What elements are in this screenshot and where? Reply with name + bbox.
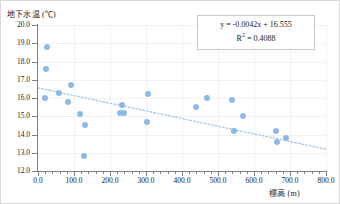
x-tick-minor bbox=[196, 172, 197, 174]
x-tick-minor bbox=[261, 172, 262, 174]
x-tick-minor bbox=[312, 172, 313, 174]
x-tick-minor bbox=[297, 172, 298, 174]
data-point bbox=[144, 119, 150, 125]
y-tick bbox=[32, 62, 37, 63]
x-tick-minor bbox=[153, 172, 154, 174]
x-tick-minor bbox=[232, 172, 233, 174]
regression-equation: y = -0.0042x + 16.555 bbox=[200, 20, 312, 31]
x-tick-label: 0.0 bbox=[18, 176, 58, 185]
y-tick bbox=[32, 135, 37, 136]
y-tick bbox=[32, 43, 37, 44]
y-tick-label: 13.0 bbox=[1, 148, 30, 157]
r-squared-line: R2 = 0.4088 bbox=[200, 31, 312, 44]
x-tick-minor bbox=[81, 172, 82, 174]
x-tick-label: 500.0 bbox=[198, 176, 238, 185]
x-tick-minor bbox=[304, 172, 305, 174]
x-tick-minor bbox=[60, 172, 61, 174]
y-tick-label: 15.0 bbox=[1, 111, 30, 120]
x-tick-minor bbox=[247, 172, 248, 174]
y-tick-label: 19.0 bbox=[1, 38, 30, 47]
data-point bbox=[65, 99, 71, 105]
x-tick-minor bbox=[103, 172, 104, 174]
x-tick-minor bbox=[168, 172, 169, 174]
x-tick-minor bbox=[45, 172, 46, 174]
x-tick-label: 300.0 bbox=[126, 176, 166, 185]
data-point bbox=[44, 44, 50, 50]
data-point bbox=[56, 90, 62, 96]
y-tick bbox=[32, 171, 37, 172]
r-squared-value: = 0.4088 bbox=[247, 33, 276, 42]
y-tick-label: 20.0 bbox=[1, 20, 30, 29]
x-tick-label: 800.0 bbox=[306, 176, 340, 185]
x-tick-minor bbox=[189, 172, 190, 174]
x-tick-minor bbox=[117, 172, 118, 174]
x-axis-title: 標高 (m) bbox=[269, 187, 300, 198]
x-tick-minor bbox=[204, 172, 205, 174]
regression-annotation-box: y = -0.0042x + 16.555 R2 = 0.4088 bbox=[197, 15, 315, 50]
chart-figure: 地下水温 (℃) 標高 (m) y = -0.0042x + 16.555 R2… bbox=[0, 0, 340, 204]
x-tick-minor bbox=[160, 172, 161, 174]
gridline-vertical bbox=[326, 25, 327, 171]
x-tick-minor bbox=[268, 172, 269, 174]
y-tick bbox=[32, 153, 37, 154]
x-tick-minor bbox=[276, 172, 277, 174]
x-tick-minor bbox=[88, 172, 89, 174]
y-tick-label: 17.0 bbox=[1, 75, 30, 84]
x-tick-minor bbox=[96, 172, 97, 174]
x-tick-label: 400.0 bbox=[162, 176, 202, 185]
x-tick-label: 600.0 bbox=[234, 176, 274, 185]
data-point bbox=[231, 128, 237, 134]
x-tick-label: 200.0 bbox=[90, 176, 130, 185]
r-squared-exponent: 2 bbox=[242, 32, 245, 38]
x-tick-minor bbox=[283, 172, 284, 174]
y-tick-label: 16.0 bbox=[1, 93, 30, 102]
data-point bbox=[43, 66, 49, 72]
x-tick-minor bbox=[124, 172, 125, 174]
y-tick-label: 12.0 bbox=[1, 166, 30, 175]
x-tick-minor bbox=[225, 172, 226, 174]
y-tick bbox=[32, 98, 37, 99]
x-tick-minor bbox=[319, 172, 320, 174]
y-tick bbox=[32, 80, 37, 81]
x-tick-label: 100.0 bbox=[54, 176, 94, 185]
y-tick-label: 14.0 bbox=[1, 130, 30, 139]
x-tick-minor bbox=[132, 172, 133, 174]
y-tick bbox=[32, 116, 37, 117]
data-point bbox=[119, 102, 125, 108]
x-tick-label: 700.0 bbox=[270, 176, 310, 185]
y-tick-label: 18.0 bbox=[1, 57, 30, 66]
x-tick-minor bbox=[240, 172, 241, 174]
y-axis-title: 地下水温 (℃) bbox=[7, 8, 56, 19]
x-tick-minor bbox=[67, 172, 68, 174]
x-tick-minor bbox=[52, 172, 53, 174]
y-tick bbox=[32, 25, 37, 26]
x-tick-minor bbox=[175, 172, 176, 174]
x-tick-minor bbox=[211, 172, 212, 174]
x-tick-minor bbox=[139, 172, 140, 174]
data-point bbox=[121, 110, 127, 116]
